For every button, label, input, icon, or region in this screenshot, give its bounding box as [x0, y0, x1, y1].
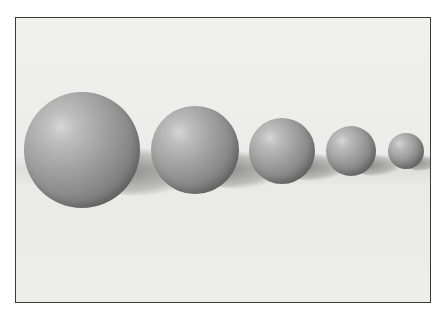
- sphere-4: [326, 126, 376, 176]
- image-frame: [15, 17, 431, 303]
- sphere-5: [388, 133, 424, 169]
- sphere-2: [151, 106, 239, 194]
- sphere-3: [249, 118, 315, 184]
- sphere-1: [24, 92, 140, 208]
